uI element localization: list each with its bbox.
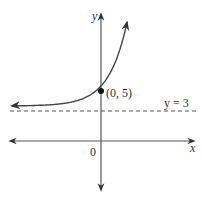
x-axis-label: x [189, 141, 196, 155]
origin-label: 0 [90, 145, 96, 159]
asymptote-label: y = 3 [164, 96, 189, 110]
graph: y x 0 (0, 5) y = 3 [0, 0, 202, 198]
y-axis-label: y [91, 9, 98, 23]
marked-point [98, 88, 104, 94]
point-label: (0, 5) [106, 86, 132, 100]
